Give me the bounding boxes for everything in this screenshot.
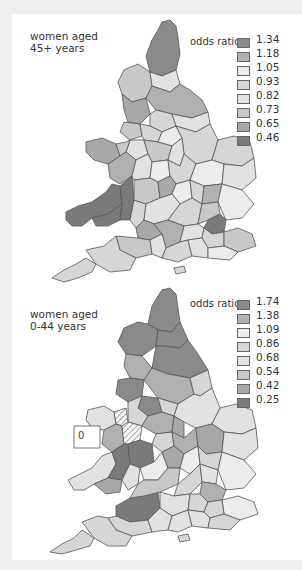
- legend-item: 0.82: [235, 90, 302, 104]
- legend-swatch: [237, 52, 250, 62]
- legend-value: 1.38: [256, 309, 279, 321]
- legend-value: 1.05: [256, 61, 279, 73]
- legend-value: 0.82: [256, 89, 279, 101]
- caption-line-1: women aged: [30, 30, 98, 42]
- legend-swatch: [237, 370, 250, 380]
- legend-item: 0.86: [235, 338, 302, 352]
- map-women-45-plus: women aged 45+ years odds ratio 1.34 1.1…: [12, 14, 302, 284]
- region-essex: [218, 452, 256, 490]
- legend-item: 0.25: [235, 394, 302, 408]
- legend-title: odds ratio: [190, 298, 240, 309]
- legend-swatch: [237, 80, 250, 90]
- legend-item: 0.65: [235, 118, 302, 132]
- legend-item: 1.09: [235, 324, 302, 338]
- legend-swatch: [237, 94, 250, 104]
- legend-value: 0.93: [256, 75, 279, 87]
- caption-line-2: 0-44 years: [30, 320, 98, 332]
- legend-title: odds ratio: [190, 36, 240, 47]
- legend-swatch: [237, 300, 250, 310]
- region-merseyside: [120, 122, 142, 140]
- legend-item: 0.46: [235, 132, 302, 146]
- region-cornwall: [50, 530, 94, 554]
- legend-value: 0.65: [256, 117, 279, 129]
- legend-item: 1.74: [235, 296, 302, 310]
- legend-value: 0.46: [256, 131, 279, 143]
- legend-value: 0.42: [256, 379, 279, 391]
- legend-value: 0.25: [256, 393, 279, 405]
- caption-line-1: women aged: [30, 308, 98, 320]
- legend-value: 1.74: [256, 295, 279, 307]
- map-caption: women aged 45+ years: [30, 30, 98, 54]
- region-cumbria: [118, 322, 158, 356]
- region-essex: [218, 184, 254, 220]
- legend-value: 0.68: [256, 351, 279, 363]
- legend-swatch: [237, 122, 250, 132]
- legend-swatch: [237, 136, 250, 146]
- map-caption: women aged 0-44 years: [30, 308, 98, 332]
- legend-item: 1.18: [235, 48, 302, 62]
- legend-swatch: [237, 66, 250, 76]
- region-cornwall: [52, 258, 96, 282]
- legend-value: 1.18: [256, 47, 279, 59]
- legend-item: 1.05: [235, 62, 302, 76]
- legend-swatch: [237, 38, 250, 48]
- legend-item: 0.42: [235, 380, 302, 394]
- region-northumberland: [148, 288, 180, 332]
- legend-value: 1.09: [256, 323, 279, 335]
- legend-value: 0.73: [256, 103, 279, 115]
- legend-item: 0.68: [235, 352, 302, 366]
- legend-swatch: [237, 342, 250, 352]
- legend: 1.74 1.38 1.09 0.86 0.68 0.54 0.42 0.25: [235, 296, 302, 408]
- region-isle-of-wight: [178, 534, 190, 542]
- legend: 1.34 1.18 1.05 0.93 0.82 0.73 0.65 0.46: [235, 34, 302, 146]
- legend-swatch: [237, 314, 250, 324]
- legend-item: 0.54: [235, 366, 302, 380]
- legend-swatch: [237, 356, 250, 366]
- legend-swatch: [237, 384, 250, 394]
- legend-item: 0.93: [235, 76, 302, 90]
- figure-panel: women aged 45+ years odds ratio 1.34 1.1…: [12, 14, 302, 560]
- legend-item: 1.38: [235, 310, 302, 324]
- inset-label: 0: [78, 430, 84, 441]
- legend-swatch: [237, 108, 250, 118]
- legend-value: 0.54: [256, 365, 279, 377]
- legend-swatch: [237, 328, 250, 338]
- region-northumberland: [146, 20, 180, 76]
- legend-item: 0.73: [235, 104, 302, 118]
- legend-swatch: [237, 398, 250, 408]
- legend-value: 0.86: [256, 337, 279, 349]
- caption-line-2: 45+ years: [30, 42, 98, 54]
- legend-value: 1.34: [256, 33, 279, 45]
- map-women-0-44: women aged 0-44 years 0 odds ratio 1.74 …: [12, 284, 302, 560]
- region-isle-of-wight: [174, 266, 186, 274]
- legend-item: 1.34: [235, 34, 302, 48]
